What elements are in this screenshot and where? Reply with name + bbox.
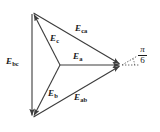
label-e-ab-sub: ab: [80, 96, 87, 103]
angle-numerator: π: [138, 45, 147, 55]
angle-label-pi-over-6: π 6: [138, 45, 147, 65]
label-e-ca: Eca: [75, 24, 87, 33]
label-e-c: Ec: [50, 34, 59, 43]
angle-arc: [133, 59, 135, 65]
label-e-b-sub: b: [54, 92, 58, 99]
label-e-ca-sub: ca: [81, 27, 87, 34]
label-e-b: Eb: [48, 89, 58, 98]
label-e-a: Ea: [73, 52, 82, 61]
label-e-ab: Eab: [74, 93, 87, 102]
phasor-vector-canvas: [0, 0, 160, 132]
label-e-a-sub: a: [79, 55, 82, 62]
label-e-bc: Ebc: [6, 57, 19, 66]
phasor-diagram-figure: Ebc Ec Eca Ea Eb Eab π 6: [0, 0, 160, 132]
angle-second-leg: [122, 57, 137, 66]
label-e-bc-sub: bc: [12, 60, 19, 67]
label-e-c-sub: c: [56, 37, 59, 44]
angle-denominator: 6: [138, 56, 147, 66]
